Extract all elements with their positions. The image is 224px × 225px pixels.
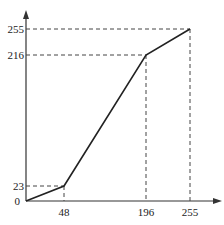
- x-tick-255: 255: [182, 206, 199, 218]
- x-axis-arrow-icon: [213, 198, 222, 204]
- y-tick-23: 23: [13, 180, 25, 192]
- y-tick-255: 255: [8, 23, 25, 35]
- x-tick-48: 48: [59, 206, 71, 218]
- x-tick-196: 196: [138, 206, 155, 218]
- y-tick-216: 216: [8, 49, 25, 61]
- chart: 0 48 196 255 23 216 255: [0, 0, 224, 225]
- y-axis-arrow-icon: [23, 10, 29, 19]
- origin-label: 0: [15, 195, 21, 207]
